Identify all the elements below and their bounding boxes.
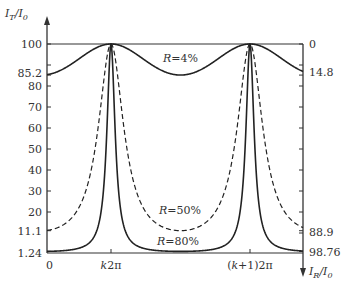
tick-label-11.1: 11.1: [18, 225, 43, 238]
curve-r50: [47, 44, 303, 231]
y-left-arrow-icon: [44, 16, 50, 25]
series-label-r80: R=80%: [156, 235, 199, 248]
tick-label-80: 80: [28, 80, 42, 93]
right-tick-label-0: 0: [309, 38, 316, 51]
x-tick-label-k1-2pi: (k+1)2π: [227, 259, 273, 272]
x-tick-label-k2pi: k2π: [101, 259, 122, 272]
x-tick-label-0: 0: [46, 259, 53, 272]
y-left-title: IT/I0: [4, 7, 28, 22]
fabry-perot-chart: IT/I0 100 85.2 80 70 60 50 40 30 20 11.1…: [0, 0, 353, 291]
tick-label-70: 70: [28, 101, 42, 114]
y-right-title: IR/I0: [308, 265, 333, 280]
right-tick-label-98.76: 98.76: [309, 246, 341, 259]
series-label-r4: R=4%: [162, 52, 198, 65]
tick-label-50: 50: [28, 143, 42, 156]
tick-label-40: 40: [28, 164, 42, 177]
right-tick-label-14.8: 14.8: [309, 66, 334, 79]
tick-label-20: 20: [28, 206, 42, 219]
tick-label-100: 100: [21, 38, 42, 51]
tick-label-85.2: 85.2: [18, 67, 43, 80]
right-tick-label-88.9: 88.9: [309, 226, 334, 239]
y-right-arrow-icon: [300, 268, 306, 277]
tick-label-60: 60: [28, 122, 42, 135]
series-label-r50: R=50%: [158, 204, 201, 217]
curves: [47, 44, 303, 251]
tick-label-1.24: 1.24: [18, 247, 43, 260]
tick-label-30: 30: [28, 185, 42, 198]
